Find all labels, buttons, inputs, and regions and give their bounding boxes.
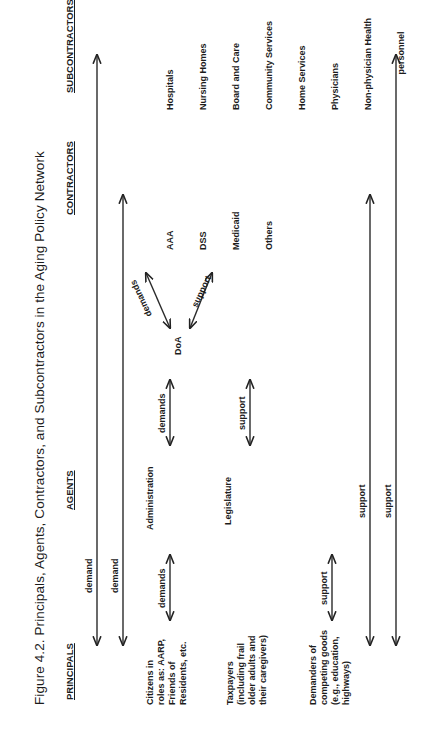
label-support-2: support: [383, 485, 393, 519]
label-support-1: support: [357, 485, 367, 519]
subcontractor-physicians: Physicians: [330, 18, 341, 110]
diagram-canvas: Figure 4.2. Principals, Agents, Contract…: [0, 0, 424, 733]
subcontractor-nursing-homes: Nursing Homes: [198, 18, 209, 110]
label-legislature-support: support: [237, 397, 247, 431]
agent-doa: DoA: [173, 337, 183, 356]
principal-demanders: Demanders of competing goods (e.g., educ…: [308, 630, 352, 705]
label-demand-2: demand: [110, 558, 120, 593]
subcontractor-community-services: Community Services: [264, 18, 275, 110]
label-demand-1: demand: [84, 558, 94, 593]
contractor-dss: DSS: [198, 211, 209, 250]
contractors-list: AAA DSS Medicaid Others: [143, 211, 297, 250]
doa-contractors-demands-arrow: [146, 273, 170, 328]
principal-taxpayers: Taxpayers (including frail older adults …: [225, 635, 269, 705]
label-doa-demands: demands: [128, 278, 154, 318]
subcontractor-hospitals: Hospitals: [165, 18, 176, 110]
agent-administration: Administration: [145, 466, 155, 530]
label-citizens-admin: demands: [157, 568, 167, 608]
subcontractor-home-services: Home Services: [297, 18, 308, 110]
contractor-medicaid: Medicaid: [231, 211, 242, 250]
contractor-others: Others: [264, 211, 275, 250]
subcontractor-personnel: personnel: [396, 18, 407, 110]
label-demanders-support: support: [319, 572, 329, 606]
agent-legislature: Legislature: [223, 477, 233, 525]
principal-citizens: Citizens in roles as: AARP, Friends of R…: [145, 639, 189, 705]
label-admin-doa: demands: [157, 393, 167, 433]
subcontractor-non-physician-health: Non-physician Health: [363, 18, 374, 110]
subcontractor-board-and-care: Board and Care: [231, 18, 242, 110]
contractor-aaa: AAA: [165, 211, 176, 250]
label-doa-support: support: [190, 274, 213, 309]
subcontractors-list: Hospitals Nursing Homes Board and Care C…: [143, 18, 424, 110]
